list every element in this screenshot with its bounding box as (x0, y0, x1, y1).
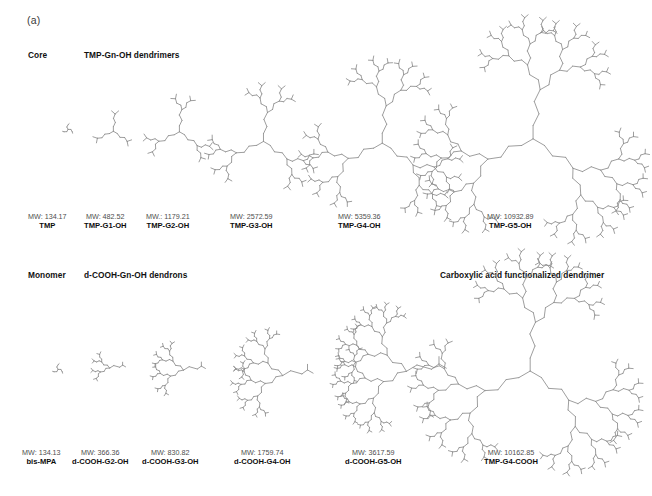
molecular-weight-label: MW.: 1179.21 (146, 213, 190, 221)
caption-tmp-g2-oh: MW.: 1179.21TMP-G2-OH (146, 213, 190, 231)
caption-tmp-g4-oh: MW: 5359.36TMP-G4-OH (338, 213, 381, 231)
compound-name-label: TMP-G4-COOH (484, 458, 538, 467)
compound-name-label: TMP (28, 222, 67, 231)
caption-tmp-g4-cooh: MW: 10162.85TMP-G4-COOH (484, 449, 538, 467)
structure-bis-mpa (52, 363, 63, 374)
header-dendrons: d-COOH-Gn-OH dendrons (84, 270, 187, 280)
caption-d-cooh-g3-oh: MW: 830.82d-COOH-G3-OH (142, 449, 199, 467)
molecular-weight-label: MW: 1759.74 (234, 449, 291, 457)
molecular-weight-label: MW: 2572.59 (230, 213, 273, 221)
structure-tmp (62, 123, 73, 134)
caption-tmp: MW: 134.17TMP (28, 213, 67, 231)
molecular-weight-label: MW: 830.82 (142, 449, 199, 457)
molecular-weight-label: MW: 10932.89 (487, 213, 534, 221)
molecular-weight-label: MW: 134.17 (28, 213, 67, 221)
molecular-weight-label: MW: 5359.36 (338, 213, 381, 221)
compound-name-label: TMP-G5-OH (487, 222, 534, 231)
compound-name-label: TMP-G4-OH (338, 222, 381, 231)
molecular-weight-label: MW: 10162.85 (484, 449, 538, 457)
compound-name-label: d-COOH-G5-OH (345, 458, 402, 467)
caption-tmp-g1-oh: MW: 482.52TMP-G1-OH (84, 213, 127, 231)
caption-d-cooh-g2-oh: MW: 366.36d-COOH-G2-OH (72, 449, 129, 467)
compound-name-label: TMP-G2-OH (146, 222, 190, 231)
compound-name-label: TMP-G3-OH (230, 222, 273, 231)
structure-d-cooh-g2-oh (90, 351, 126, 382)
header-monomer: Monomer (28, 270, 66, 280)
panel-label: (a) (27, 14, 40, 26)
structure-d-cooh-g3-oh (149, 340, 207, 397)
compound-name-label: TMP-G1-OH (84, 222, 127, 231)
molecular-weight-label: MW: 3617.59 (345, 449, 402, 457)
molecular-weight-label: MW: 366.36 (72, 449, 129, 457)
caption-d-cooh-g4-oh: MW: 1759.74d-COOH-G4-OH (234, 449, 291, 467)
compound-name-label: d-COOH-G3-OH (142, 458, 199, 467)
molecular-weight-label: MW: 134.13 (22, 449, 61, 457)
caption-tmp-g3-oh: MW: 2572.59TMP-G3-OH (230, 213, 273, 231)
compound-name-label: d-COOH-G2-OH (72, 458, 129, 467)
compound-name-label: d-COOH-G4-OH (234, 458, 291, 467)
caption-d-cooh-g5-oh: MW: 3617.59d-COOH-G5-OH (345, 449, 402, 467)
caption-bis-mpa: MW: 134.13bis-MPA (22, 449, 61, 467)
header-core: Core (28, 50, 47, 60)
structure-tmp-g1-oh (92, 110, 133, 147)
caption-tmp-g5-oh: MW: 10932.89TMP-G5-OH (487, 213, 534, 231)
header-dendrimers: TMP-Gn-OH dendrimers (84, 50, 180, 60)
molecular-weight-label: MW: 482.52 (84, 213, 127, 221)
structure-d-cooh-g4-oh (229, 326, 315, 419)
structure-tmp-g4-cooh (405, 246, 646, 479)
compound-name-label: bis-MPA (22, 458, 61, 467)
